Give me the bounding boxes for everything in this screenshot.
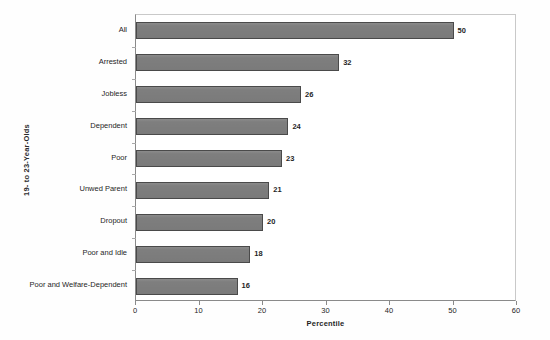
x-axis-tick [389, 301, 390, 305]
y-axis-tick-label: All [119, 24, 127, 36]
y-axis-tick-labels: AllArrestedJoblessDependentPoorUnwed Par… [0, 14, 131, 301]
bar-value-label: 20 [267, 216, 275, 228]
bar-value-label: 23 [286, 153, 294, 165]
y-axis-tick-label: Poor and Welfare-Dependent [30, 279, 127, 291]
bar-chart-figure: 19- to 23-Year-Olds AllArrestedJoblessDe… [0, 0, 550, 340]
bar [136, 246, 250, 263]
bar [136, 118, 288, 135]
x-axis-tick [199, 301, 200, 305]
bar [136, 54, 339, 71]
x-axis-tick [326, 301, 327, 305]
y-axis-tick [132, 206, 136, 207]
x-axis-tick-label: 0 [133, 306, 137, 315]
y-axis-tick [132, 79, 136, 80]
x-axis: Percentile 0102030405060 [135, 301, 516, 339]
x-axis-tick-label: 20 [258, 306, 266, 315]
bar-value-label: 18 [254, 248, 262, 260]
x-axis-title: Percentile [135, 319, 516, 328]
bar [136, 182, 269, 199]
y-axis-tick [132, 47, 136, 48]
bar [136, 214, 263, 231]
x-axis-tick [516, 301, 517, 305]
x-axis-tick-label: 10 [194, 306, 202, 315]
bar-value-label: 24 [292, 121, 300, 133]
x-axis-tick [135, 301, 136, 305]
bar-value-label: 50 [458, 25, 466, 37]
bar-value-label: 16 [242, 280, 250, 292]
bar-value-label: 26 [305, 89, 313, 101]
y-axis-tick-label: Poor and Idle [82, 247, 127, 259]
y-axis-tick [132, 270, 136, 271]
y-axis-tick-label: Poor [111, 152, 127, 164]
bar [136, 278, 238, 295]
bar [136, 22, 454, 39]
x-axis-tick [453, 301, 454, 305]
x-axis-tick-label: 40 [385, 306, 393, 315]
y-axis-tick [132, 174, 136, 175]
y-axis-tick [132, 111, 136, 112]
y-axis-tick-label: Dependent [90, 120, 127, 132]
x-axis-tick-label: 50 [448, 306, 456, 315]
y-axis-tick-label: Jobless [102, 88, 127, 100]
y-axis-tick [132, 238, 136, 239]
bar [136, 150, 282, 167]
x-axis-tick-label: 30 [321, 306, 329, 315]
plot-area: 503226242321201816 [135, 14, 516, 301]
y-axis-tick [132, 143, 136, 144]
bar-value-label: 32 [343, 57, 351, 69]
x-axis-tick-label: 60 [512, 306, 520, 315]
y-axis-tick-label: Arrested [99, 56, 127, 68]
bar-value-label: 21 [273, 184, 281, 196]
y-axis-tick-label: Unwed Parent [79, 183, 127, 195]
bar [136, 86, 301, 103]
x-axis-tick [262, 301, 263, 305]
y-axis-tick-label: Dropout [100, 215, 127, 227]
